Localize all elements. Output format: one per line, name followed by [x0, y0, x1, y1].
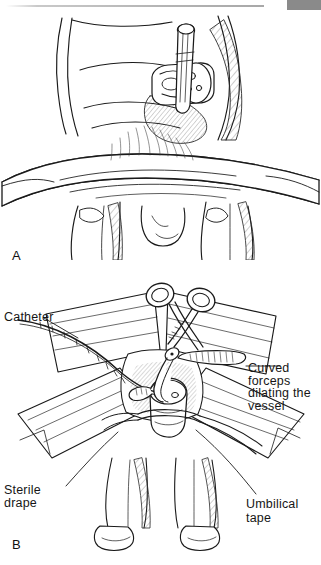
label-curved-forceps-line-1: Curved forceps	[248, 362, 321, 387]
label-sterile-drape-line-2: drape	[4, 497, 68, 510]
figure-page: A B Catheter Curved forceps dilating the…	[0, 0, 321, 565]
panel-a-illustration	[0, 10, 321, 260]
header-corner-block	[287, 0, 321, 10]
label-curved-forceps-line-2: dilating the	[248, 387, 321, 400]
label-umbilical-tape: Umbilical tape	[246, 497, 321, 525]
label-catheter: Catheter	[4, 310, 54, 324]
header-rule	[6, 5, 264, 7]
label-curved-forceps: Curved forceps dilating the vessel	[248, 362, 321, 412]
label-sterile-drape-line-1: Sterile	[4, 484, 68, 497]
panel-letter-a: A	[12, 248, 21, 263]
label-curved-forceps-line-3: vessel	[248, 400, 321, 413]
label-sterile-drape: Sterile drape	[4, 484, 68, 509]
panel-letter-b: B	[12, 537, 21, 552]
